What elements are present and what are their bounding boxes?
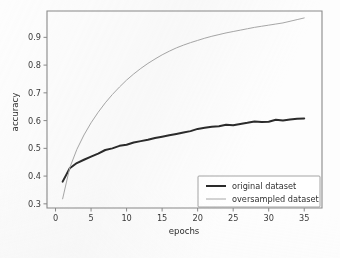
y-tick-label-0.4: 0.4 bbox=[28, 171, 41, 181]
series-line-original-dataset bbox=[63, 118, 305, 181]
line-chart: 05101520253035 0.30.40.50.60.70.80.9 epo… bbox=[0, 0, 340, 258]
y-tick-label-0.3: 0.3 bbox=[28, 199, 41, 209]
y-tick-label-0.5: 0.5 bbox=[28, 143, 41, 153]
x-tick-label-25: 25 bbox=[228, 213, 238, 223]
series-line-oversampled-dataset bbox=[63, 18, 305, 199]
y-tick-label-0.6: 0.6 bbox=[28, 116, 41, 126]
x-tick-label-5: 5 bbox=[88, 213, 93, 223]
x-tick-label-35: 35 bbox=[299, 213, 309, 223]
x-axis-tick-labels: 05101520253035 bbox=[53, 213, 310, 223]
x-tick-label-20: 20 bbox=[192, 213, 202, 223]
y-axis-tick-labels: 0.30.40.50.60.70.80.9 bbox=[28, 32, 41, 208]
y-axis-title: accuracy bbox=[10, 93, 20, 132]
chart-legend: original dataset oversampled dataset bbox=[198, 176, 320, 207]
data-series-group bbox=[63, 18, 305, 199]
legend-label-original-dataset: original dataset bbox=[232, 181, 297, 191]
x-axis-title: epochs bbox=[169, 226, 200, 236]
chart-figure: 05101520253035 0.30.40.50.60.70.80.9 epo… bbox=[0, 0, 340, 258]
x-tick-label-10: 10 bbox=[121, 213, 131, 223]
legend-label-oversampled-dataset: oversampled dataset bbox=[232, 194, 320, 204]
y-tick-label-0.8: 0.8 bbox=[28, 60, 41, 70]
x-tick-label-15: 15 bbox=[157, 213, 167, 223]
x-tick-label-0: 0 bbox=[53, 213, 58, 223]
y-tick-label-0.9: 0.9 bbox=[28, 32, 41, 42]
y-tick-label-0.7: 0.7 bbox=[28, 88, 41, 98]
x-tick-label-30: 30 bbox=[263, 213, 273, 223]
